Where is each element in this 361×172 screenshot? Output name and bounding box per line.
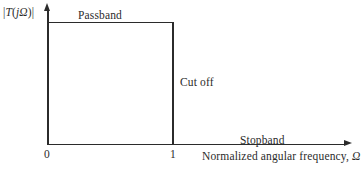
x-tick-label-1: 1 [170, 148, 176, 160]
passband-annotation: Passband [78, 9, 122, 21]
x-axis-label: Normalized angular frequency, Ω [202, 150, 360, 162]
passband-response-segment [48, 22, 174, 24]
stopband-annotation: Stopband [240, 134, 285, 146]
y-axis-label: |T(jΩ)| [3, 6, 34, 18]
x-axis-label-symbol: Ω [349, 150, 361, 162]
y-axis-line [47, 10, 49, 145]
x-axis-line [47, 144, 345, 146]
x-tick-label-0: 0 [44, 148, 50, 160]
x-axis-arrow-icon [344, 140, 352, 146]
filter-response-figure: |T(jΩ)| Passband Cut off Stopband 0 1 No… [0, 0, 361, 172]
cutoff-response-segment [172, 22, 174, 145]
x-axis-label-text: Normalized angular frequency, [202, 150, 349, 162]
y-label-omega: Ω [19, 6, 27, 18]
y-label-bar-close: | [32, 6, 34, 18]
y-axis-arrow-icon [44, 3, 50, 11]
cutoff-annotation: Cut off [180, 76, 214, 88]
